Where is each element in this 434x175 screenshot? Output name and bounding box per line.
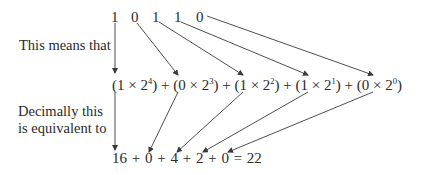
expansion-term-4: (1 × 21) bbox=[296, 77, 341, 93]
plus-operator: + bbox=[132, 150, 140, 166]
decimal-value-2: 0 bbox=[145, 150, 153, 166]
decimal-value-1: 16 bbox=[112, 150, 127, 166]
binary-digit-3: 1 bbox=[152, 10, 160, 25]
plus-operator: + bbox=[222, 77, 230, 93]
binary-digit-1: 1 bbox=[111, 10, 119, 25]
plus-operator: + bbox=[157, 150, 165, 166]
label-decimally: Decimally this is equivalent to bbox=[18, 103, 107, 137]
decimal-result: 22 bbox=[247, 150, 262, 166]
binary-digit-5: 0 bbox=[196, 10, 204, 25]
arrow-digit5-to-term5 bbox=[207, 16, 373, 75]
label-decimal-line1: Decimally this bbox=[18, 103, 107, 120]
expansion-term-1: (1 × 24) bbox=[112, 77, 157, 93]
expansion-term-3: (1 × 22) bbox=[234, 77, 279, 93]
plus-operator: + bbox=[183, 150, 191, 166]
decimal-row: 16 + 0 + 4 + 2 + 0 = 22 bbox=[112, 151, 262, 166]
arrow-term5-to-value5 bbox=[228, 92, 373, 152]
decimal-value-4: 2 bbox=[196, 150, 204, 166]
decimal-value-3: 4 bbox=[170, 150, 178, 166]
equals-sign: = bbox=[234, 150, 242, 166]
plus-operator: + bbox=[208, 150, 216, 166]
label-decimal-line2: is equivalent to bbox=[18, 120, 107, 137]
expansion-row: (1 × 24) + (0 × 23) + (1 × 22) + (1 × 21… bbox=[112, 77, 402, 93]
label-means-that: This means that bbox=[19, 37, 111, 54]
arrow-term4-to-value4 bbox=[203, 92, 308, 152]
arrow-term3-to-value3 bbox=[177, 92, 243, 152]
arrow-term2-to-value2 bbox=[149, 92, 178, 152]
expansion-term-2: (0 × 23) bbox=[173, 77, 218, 93]
arrow-digit2-to-term2 bbox=[137, 23, 178, 75]
binary-digit-2: 0 bbox=[131, 10, 139, 25]
binary-digit-4: 1 bbox=[174, 10, 182, 25]
plus-operator: + bbox=[345, 77, 353, 93]
plus-operator: + bbox=[161, 77, 169, 93]
decimal-value-5: 0 bbox=[221, 150, 229, 166]
plus-operator: + bbox=[283, 77, 291, 93]
expansion-term-5: (0 × 20) bbox=[357, 77, 402, 93]
arrow-digit4-to-term4 bbox=[181, 22, 308, 75]
